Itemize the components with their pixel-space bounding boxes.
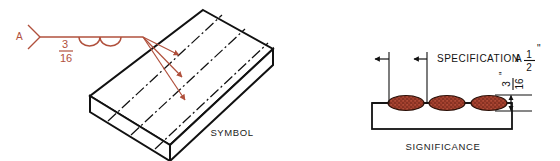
isometric-plate xyxy=(90,10,273,161)
size-denominator: 16 xyxy=(60,52,72,64)
figure-canvas: A 3 16 SYMBOL xyxy=(0,0,560,161)
nugget-height-fraction: 3 16 " xyxy=(498,71,525,90)
height-denominator: 16 xyxy=(514,78,525,90)
weld-nugget-2 xyxy=(429,96,465,111)
seam-weld-arc-2 xyxy=(100,37,121,46)
specification-class: A xyxy=(515,53,522,64)
welding-symbol-figure: A 3 16 SYMBOL xyxy=(0,0,560,161)
weld-nugget-1 xyxy=(388,96,424,111)
significance-panel: SPECIFICATION A 1 2 " 3 16 " xyxy=(372,43,541,152)
seam-weld-arc-1 xyxy=(79,37,100,46)
tail-label: A xyxy=(16,31,23,42)
spec-inch-mark: " xyxy=(537,43,541,54)
symbol-caption: SYMBOL xyxy=(210,127,253,138)
height-numerator: 3 xyxy=(501,81,512,87)
specification-fraction: 1 2 " xyxy=(524,43,541,73)
significance-caption: SIGNIFICANCE xyxy=(406,141,481,152)
weld-nuggets xyxy=(388,96,507,111)
weld-size-fraction: 3 16 xyxy=(59,38,73,64)
specification-label: SPECIFICATION xyxy=(437,53,519,64)
spec-denominator: 2 xyxy=(526,62,532,73)
height-inch-mark: " xyxy=(498,71,509,75)
specification-callout: SPECIFICATION A 1 2 " xyxy=(437,43,541,73)
size-numerator: 3 xyxy=(62,38,68,50)
weld-nugget-3 xyxy=(471,96,507,111)
spec-numerator: 1 xyxy=(526,49,532,60)
symbol-panel: A 3 16 SYMBOL xyxy=(16,10,273,161)
tail-fork xyxy=(28,25,40,49)
